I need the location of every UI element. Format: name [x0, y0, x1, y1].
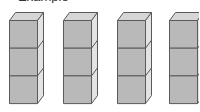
tower-top-face	[170, 13, 200, 21]
cube-front-face	[170, 21, 198, 49]
cube-tower-2	[64, 13, 98, 104]
cube-tower-3	[118, 13, 152, 104]
cube-front-face	[10, 21, 38, 49]
cube-towers-figure	[0, 0, 199, 112]
tower-side-face	[92, 13, 98, 104]
cube-front-face	[118, 48, 146, 76]
cube-front-face	[64, 48, 92, 76]
cube-front-face	[10, 76, 38, 104]
cube-tower-1	[10, 13, 44, 104]
unit-cube	[118, 21, 146, 49]
cube-tower-4	[170, 13, 200, 104]
cube-front-face	[118, 21, 146, 49]
cube-front-face	[64, 76, 92, 104]
cube-front-face	[64, 21, 92, 49]
unit-cube	[64, 21, 92, 49]
cube-front-face	[10, 48, 38, 76]
tower-side-face	[38, 13, 44, 104]
cube-front-face	[170, 76, 198, 104]
unit-cube	[170, 21, 198, 49]
cube-front-face	[118, 76, 146, 104]
tower-side-face	[146, 13, 152, 104]
cube-front-face	[170, 48, 198, 76]
unit-cube	[10, 21, 38, 49]
cube-towers-svg	[0, 0, 199, 112]
